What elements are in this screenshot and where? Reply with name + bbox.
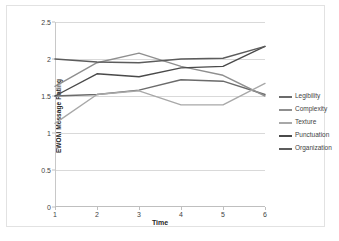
y-tick-label: 1.5 [41, 93, 51, 100]
legend-label: Organization [295, 145, 332, 152]
y-tick-label: 2 [47, 56, 51, 63]
x-tick-label: 4 [179, 211, 183, 218]
chart-figure: EWOM Message Rating 00.511.522.5 123456 … [0, 0, 339, 241]
series-line-texture [55, 83, 265, 123]
legend-item-organization[interactable]: Organization [279, 142, 339, 155]
series-line-organization [55, 46, 265, 62]
plot-inner: 00.511.522.5 123456 [55, 22, 265, 207]
legend-item-punctuation[interactable]: Punctuation [279, 129, 339, 142]
legend-swatch-icon [279, 96, 292, 98]
legend-label: Texture [295, 119, 316, 126]
x-tick-mark [97, 207, 98, 210]
x-axis-title: Time [55, 219, 265, 226]
legend-swatch-icon [279, 148, 292, 150]
y-tick-label: 0.5 [41, 167, 51, 174]
legend-item-legibility[interactable]: Legibility [279, 90, 339, 103]
x-tick-label: 3 [137, 211, 141, 218]
legend-swatch-icon [279, 135, 292, 137]
x-tick-mark [265, 207, 266, 210]
series-line-punctuation [55, 46, 265, 96]
x-tick-mark [223, 207, 224, 210]
y-tick-label: 0 [47, 204, 51, 211]
legend-swatch-icon [279, 122, 292, 124]
x-tick-label: 2 [95, 211, 99, 218]
y-tick-label: 1 [47, 130, 51, 137]
legend-item-complexity[interactable]: Complexity [279, 103, 339, 116]
legend-swatch-icon [279, 109, 292, 111]
x-tick-mark [181, 207, 182, 210]
series-line-legibility [55, 80, 265, 96]
series-lines [55, 22, 265, 207]
x-tick-mark [139, 207, 140, 210]
y-tick-label: 2.5 [41, 19, 51, 26]
legend-item-texture[interactable]: Texture [279, 116, 339, 129]
legend-label: Punctuation [295, 132, 329, 139]
x-tick-mark [55, 207, 56, 210]
series-line-complexity [55, 53, 265, 96]
x-tick-label: 5 [221, 211, 225, 218]
legend-label: Complexity [295, 106, 327, 113]
chart-frame: EWOM Message Rating 00.511.522.5 123456 … [6, 5, 325, 227]
legend-label: Legibility [295, 93, 320, 100]
plot-area: 00.511.522.5 123456 [55, 22, 265, 207]
x-tick-label: 6 [263, 211, 267, 218]
chart-legend: LegibilityComplexityTexturePunctuationOr… [279, 90, 339, 155]
x-tick-label: 1 [53, 211, 57, 218]
